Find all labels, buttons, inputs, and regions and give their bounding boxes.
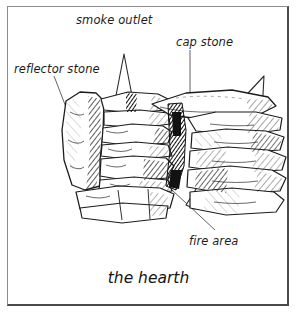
label-reflector-stone: reflector stone xyxy=(14,62,100,76)
label-smoke-outlet: smoke outlet xyxy=(76,13,152,27)
label-fire-area: fire area xyxy=(189,234,239,248)
figure-border xyxy=(7,6,289,306)
hearth-figure: smoke outlet cap stone reflector stone f… xyxy=(0,0,297,315)
label-cap-stone: cap stone xyxy=(176,35,233,49)
figure-caption: the hearth xyxy=(0,269,297,287)
